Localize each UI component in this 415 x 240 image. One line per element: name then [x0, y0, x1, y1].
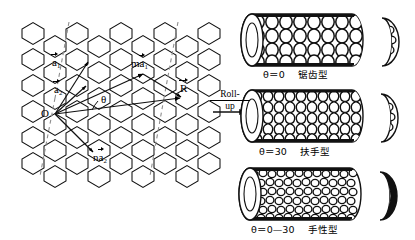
vector-R-second-arrow	[143, 74, 181, 97]
chiral-angle-theta-label: θ	[101, 94, 106, 105]
chiral-caption-type: 手性型	[308, 224, 338, 235]
figure-artwork	[0, 0, 415, 240]
lattice-origin-label: O	[41, 108, 49, 119]
vector-a1-subscript: 1	[57, 62, 60, 69]
vector-a1-label: a1	[52, 57, 60, 69]
zigzag-cross-section-graphic	[374, 18, 399, 66]
chiral-guide-dashed-lines	[40, 22, 178, 176]
nanotube-chirality-figure: O θ a1 a2 ma1 na2 R Roll- up θ＝0 锯齿型 θ＝3…	[0, 0, 415, 240]
armchair-caption-type: 扶手型	[300, 146, 330, 157]
chiral-nanotube-graphic	[239, 166, 361, 222]
vector-R-label: R	[180, 83, 187, 94]
chiral-caption-angle: θ＝0—30	[251, 224, 294, 235]
vector-ma1-subscript: 1	[144, 63, 147, 70]
vector-a2-subscript: 2	[59, 89, 62, 96]
vector-a2-label: a2	[54, 84, 62, 96]
rollup-line1: Roll-	[210, 90, 250, 100]
vector-na2-label: na2	[93, 152, 107, 164]
armchair-caption-angle: θ＝30	[259, 146, 287, 157]
zigzag-caption-type: 锯齿型	[298, 69, 328, 80]
armchair-caption: θ＝30 扶手型	[259, 144, 330, 158]
vector-ma1-prefix: m	[131, 57, 140, 69]
chiral-cross-section-graphic	[377, 172, 397, 220]
armchair-lattice-texture	[250, 88, 361, 144]
armchair-nanotube-graphic	[241, 88, 363, 144]
rollup-label: Roll- up	[210, 90, 250, 111]
rollup-line2: up	[210, 102, 250, 112]
armchair-cross-section-graphic	[373, 94, 398, 142]
chiral-caption: θ＝0—30 手性型	[251, 222, 338, 236]
vector-ma1-label: ma1	[131, 58, 148, 70]
zigzag-nanotube-graphic	[241, 12, 363, 69]
zigzag-caption: θ＝0 锯齿型	[263, 67, 328, 81]
zigzag-caption-angle: θ＝0	[263, 69, 285, 80]
vector-na2-subscript: 2	[103, 157, 106, 164]
